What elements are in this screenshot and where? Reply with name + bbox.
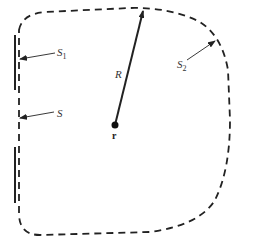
surface-diagram: S1 S S2 R r: [0, 0, 256, 248]
s1-label: S1: [57, 46, 67, 61]
s2-pointer-arrow: [187, 41, 215, 60]
closed-surface-boundary: [19, 8, 230, 235]
source-point-dot: [112, 122, 119, 129]
s-pointer-arrow: [20, 112, 54, 118]
s1-pointer-arrow: [20, 53, 55, 59]
radius-label: R: [114, 68, 122, 80]
s2-label: S2: [177, 58, 187, 73]
point-label: r: [112, 130, 117, 141]
s-label: S: [57, 107, 63, 119]
